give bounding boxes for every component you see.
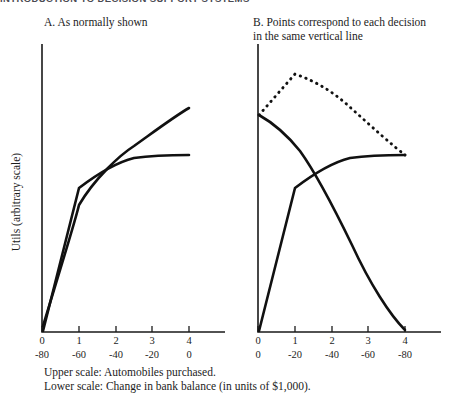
panel-a-lower-tick-2: -40: [101, 349, 131, 360]
panel-b-upper-tick-0: 0: [243, 335, 273, 346]
panel-a-upper-tick-0: 0: [27, 335, 57, 346]
panel-b-curve-money-reversed: [259, 115, 405, 330]
panel-a-upper-tick-3: 3: [137, 335, 167, 346]
panel-b-lower-tick-3: -60: [353, 349, 383, 360]
panel-a-upper-tick-1: 1: [64, 335, 94, 346]
panel-b-lower-tick-1: -20: [280, 349, 310, 360]
panel-b-lower-tick-2: -40: [317, 349, 347, 360]
panel-a-axes: [42, 44, 225, 332]
panel-b-upper-tick-1: 1: [280, 335, 310, 346]
caption-line-upper-scale: Upper scale: Automobiles purchased.: [44, 365, 311, 379]
panel-b-upper-tick-4: 4: [390, 335, 420, 346]
panel-a-lower-tick-3: -20: [137, 349, 167, 360]
panel-b-lower-tick-0: 0: [243, 349, 273, 360]
figure-caption: Upper scale: Automobiles purchased. Lowe…: [44, 365, 311, 393]
panel-b-curve-total-utility: [259, 74, 405, 155]
panel-b-axes: [258, 44, 441, 332]
panel-b-upper-tick-2: 2: [317, 335, 347, 346]
panel-a-curve-money: [43, 155, 189, 331]
panel-a-lower-tick-1: -60: [64, 349, 94, 360]
panel-a-curve-automobiles: [43, 108, 189, 326]
panel-b-lower-tick-4: -80: [390, 349, 420, 360]
caption-line-lower-scale: Lower scale: Change in bank balance (in …: [44, 379, 311, 393]
panel-a-upper-tick-2: 2: [101, 335, 131, 346]
panel-a-lower-tick-4: 0: [174, 349, 204, 360]
panel-b-curve-automobiles: [259, 155, 405, 331]
panel-a-lower-tick-0: -80: [27, 349, 57, 360]
panel-b-upper-tick-3: 3: [353, 335, 383, 346]
panel-a-upper-tick-4: 4: [174, 335, 204, 346]
